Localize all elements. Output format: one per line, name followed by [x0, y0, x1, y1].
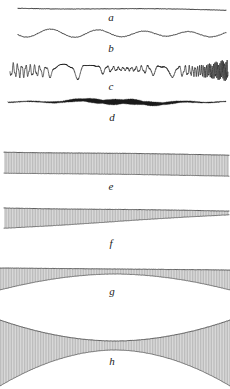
trace-b	[18, 29, 226, 38]
panel-label-g: g	[102, 286, 122, 297]
panel-label-e: e	[101, 181, 121, 192]
panel-label-h: h	[102, 356, 122, 367]
trace-a	[18, 8, 226, 10]
panel-label-b: b	[101, 43, 121, 54]
figure-svg	[0, 0, 230, 389]
trace-d	[8, 98, 226, 106]
panel-label-a: a	[101, 12, 121, 23]
figure-canvas	[0, 0, 230, 389]
panel-label-c: c	[101, 81, 121, 92]
panel-label-d: d	[102, 112, 122, 123]
panel-label-f: f	[101, 238, 121, 249]
band-e-fill	[4, 152, 229, 176]
trace-c	[10, 60, 228, 81]
